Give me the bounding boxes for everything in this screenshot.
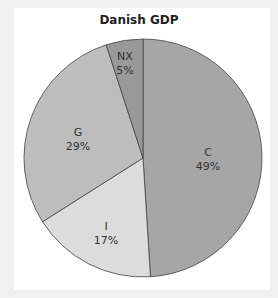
slice-pct-c: 49% — [196, 160, 220, 173]
slice-label-g: G — [74, 126, 83, 139]
slice-label-c: C — [204, 146, 212, 159]
chart-title: Danish GDP — [0, 13, 278, 27]
pie-chart: C 49% I 17% G 29% NX 5% — [0, 0, 278, 298]
slice-label-i: I — [104, 220, 107, 233]
slice-c — [143, 39, 262, 277]
slice-pct-i: 17% — [94, 234, 118, 247]
slice-label-nx: NX — [117, 50, 133, 63]
slice-pct-g: 29% — [66, 140, 90, 153]
slice-pct-nx: 5% — [116, 64, 133, 77]
